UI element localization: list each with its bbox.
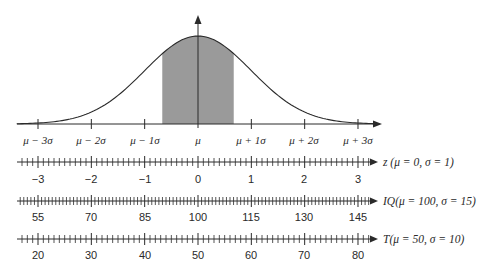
iq-tick-label: 100 [189, 211, 207, 223]
t-tick-label: 20 [32, 249, 44, 261]
iq-tick-label: 70 [85, 211, 97, 223]
iq-scale: IQ(μ = 100, σ = 15) 55 70 85 100 115 130… [17, 195, 476, 223]
sigma-label: μ + 2σ [288, 134, 319, 146]
sigma-label: μ [194, 134, 201, 146]
iq-tick-label: 115 [242, 211, 260, 223]
sigma-label: μ − 3σ [22, 134, 53, 146]
t-tick-label: 40 [139, 249, 151, 261]
x-axis-arrow-icon [373, 121, 382, 128]
z-scale-label: z (μ = 0, σ = 1) [382, 156, 454, 169]
normal-distribution-figure: μ − 3σ μ − 2σ μ − 1σ μ μ + 1σ μ + 2σ μ +… [0, 0, 482, 273]
z-tick-label: 1 [248, 173, 254, 185]
z-tick-label: −3 [32, 173, 45, 185]
t-scale-arrow-icon [370, 236, 378, 243]
iq-tick-label: 55 [32, 211, 44, 223]
t-tick-label: 50 [192, 249, 204, 261]
iq-scale-label: IQ(μ = 100, σ = 15) [382, 195, 476, 208]
iq-scale-arrow-icon [370, 198, 378, 205]
z-tick-label: 3 [355, 173, 361, 185]
mean-axis-arrow-icon [195, 15, 202, 24]
sigma-label: μ − 1σ [129, 134, 160, 146]
sigma-label: μ − 2σ [75, 134, 106, 146]
z-scale-arrow-icon [370, 159, 378, 166]
sigma-label: μ + 3σ [342, 134, 373, 146]
sigma-label: μ + 1σ [235, 134, 266, 146]
z-tick-label: −1 [139, 173, 152, 185]
z-tick-label: 2 [301, 173, 307, 185]
t-scale: T(μ = 50, σ = 10) 20 30 40 50 60 70 80 [17, 233, 464, 261]
z-scale: z (μ = 0, σ = 1) −3 −2 −1 0 1 2 3 [17, 156, 454, 185]
t-tick-label: 60 [245, 249, 257, 261]
iq-tick-label: 85 [139, 211, 151, 223]
t-tick-label: 30 [85, 249, 97, 261]
normal-curve-plot: μ − 3σ μ − 2σ μ − 1σ μ μ + 1σ μ + 2σ μ +… [17, 15, 382, 146]
t-tick-label: 70 [298, 249, 310, 261]
iq-tick-label: 145 [349, 211, 367, 223]
z-tick-label: −2 [85, 173, 98, 185]
iq-tick-label: 130 [295, 211, 313, 223]
z-tick-label: 0 [195, 173, 201, 185]
t-scale-label: T(μ = 50, σ = 10) [383, 233, 464, 246]
sigma-labels: μ − 3σ μ − 2σ μ − 1σ μ μ + 1σ μ + 2σ μ +… [22, 134, 373, 146]
t-tick-label: 80 [352, 249, 364, 261]
